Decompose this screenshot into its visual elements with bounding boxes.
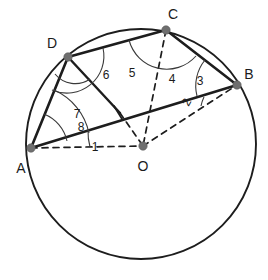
vertex-dot-O bbox=[139, 142, 147, 150]
vertex-label-C: C bbox=[168, 6, 178, 22]
construction-lines bbox=[31, 30, 237, 148]
vertex-label-B: B bbox=[244, 66, 253, 82]
geometry-figure: A B C D O 1 2 3 4 5 6 7 8 bbox=[0, 0, 268, 280]
segment-C-O bbox=[143, 30, 166, 146]
vertex-dot-A bbox=[27, 144, 35, 152]
angle-label-7: 7 bbox=[74, 107, 81, 121]
chord-AD bbox=[31, 57, 68, 148]
angle-label-3: 3 bbox=[197, 74, 204, 88]
vertex-dot-C bbox=[162, 26, 170, 34]
vertex-label-A: A bbox=[16, 160, 26, 176]
angle-label-4: 4 bbox=[169, 72, 176, 86]
diagram-svg: A B C D O 1 2 3 4 5 6 7 8 bbox=[0, 0, 268, 280]
vertex-label-O: O bbox=[138, 158, 149, 174]
segment-D-O-solid-part bbox=[68, 57, 120, 113]
angle-label-6: 6 bbox=[103, 68, 110, 82]
angle-label-1: 1 bbox=[92, 140, 99, 154]
angle-label-8: 8 bbox=[78, 120, 85, 134]
vertex-label-D: D bbox=[47, 35, 57, 51]
chord-DC bbox=[68, 30, 166, 57]
segment-A-O bbox=[31, 146, 143, 148]
angle-label-5: 5 bbox=[129, 66, 136, 80]
angle-arc-B-angle2 bbox=[201, 97, 204, 106]
segment-O-B bbox=[143, 85, 237, 146]
quadrilateral-chords bbox=[31, 30, 237, 148]
vertex-dot-D bbox=[64, 53, 72, 61]
vertex-dot-B bbox=[233, 81, 241, 89]
